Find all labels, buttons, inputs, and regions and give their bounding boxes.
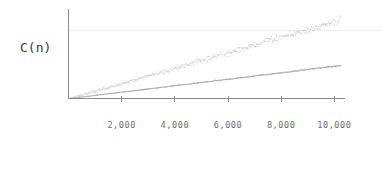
data-point <box>112 86 113 87</box>
data-point <box>226 50 227 51</box>
data-point <box>261 44 262 45</box>
data-point <box>295 35 296 36</box>
data-point <box>87 94 88 95</box>
data-point <box>197 59 198 60</box>
data-point <box>304 30 305 31</box>
data-point <box>289 31 290 32</box>
data-point <box>240 50 241 51</box>
data-point <box>165 69 166 70</box>
data-point <box>232 52 233 53</box>
data-point <box>277 41 278 42</box>
data-point <box>122 82 123 83</box>
data-point <box>208 59 209 60</box>
data-point <box>169 71 170 72</box>
data-point <box>316 28 317 29</box>
data-point <box>216 57 217 58</box>
data-point <box>336 16 337 17</box>
data-point <box>336 24 337 25</box>
data-point <box>184 66 185 67</box>
data-point <box>146 75 147 76</box>
data-point <box>262 42 263 43</box>
data-point <box>210 57 211 58</box>
data-point <box>200 60 201 61</box>
data-point <box>160 72 161 73</box>
data-point <box>132 79 133 80</box>
data-point <box>83 94 84 95</box>
data-point <box>268 73 269 74</box>
data-point <box>258 44 259 45</box>
data-point <box>273 42 274 43</box>
data-point <box>335 66 336 67</box>
data-point <box>146 76 147 77</box>
data-point <box>301 33 302 34</box>
data-point <box>109 87 110 88</box>
data-point <box>274 39 275 40</box>
data-point <box>152 73 153 74</box>
data-point <box>241 47 242 48</box>
data-point <box>317 26 318 27</box>
data-point <box>147 76 148 77</box>
data-point <box>301 30 302 31</box>
data-point <box>170 68 171 69</box>
data-point <box>166 70 167 71</box>
data-point <box>141 77 142 78</box>
data-point <box>207 61 208 62</box>
data-point <box>120 85 121 86</box>
data-point <box>221 57 222 58</box>
data-point <box>217 56 218 57</box>
data-point <box>284 37 285 38</box>
data-point <box>139 78 140 79</box>
data-point <box>243 48 244 49</box>
data-point <box>306 31 307 32</box>
data-point <box>291 34 292 35</box>
data-point <box>305 28 306 29</box>
data-point <box>339 19 340 20</box>
data-point <box>100 88 101 89</box>
data-point <box>275 40 276 41</box>
data-point <box>182 64 183 65</box>
data-point <box>121 83 122 84</box>
data-point <box>317 29 318 30</box>
data-point <box>288 34 289 35</box>
data-point <box>313 30 314 31</box>
data-point <box>338 23 339 24</box>
data-point <box>177 67 178 68</box>
data-point <box>334 20 335 21</box>
data-point <box>215 57 216 58</box>
data-point <box>171 70 172 71</box>
data-point <box>157 70 158 71</box>
data-point <box>244 48 245 49</box>
data-point <box>185 63 186 64</box>
data-point <box>137 78 138 79</box>
data-point <box>89 92 90 93</box>
data-point <box>114 83 115 84</box>
data-point <box>78 96 79 97</box>
data-point <box>235 49 236 50</box>
data-point <box>232 50 233 51</box>
data-point <box>217 54 218 55</box>
data-point <box>302 26 303 27</box>
data-point <box>223 58 224 59</box>
data-point <box>225 56 226 57</box>
data-point <box>212 55 213 56</box>
data-point <box>151 75 152 76</box>
data-point <box>276 37 277 38</box>
data-point <box>252 45 253 46</box>
x-axis-tick-label: 6,000 <box>214 120 243 130</box>
scatter-chart: C(n) 2,0004,0006,0008,00010,000 <box>0 0 382 170</box>
data-point <box>197 62 198 63</box>
data-point <box>299 32 300 33</box>
data-point <box>140 75 141 76</box>
data-point <box>263 40 264 41</box>
data-point <box>281 39 282 40</box>
data-point <box>219 55 220 56</box>
data-point <box>220 52 221 53</box>
data-point <box>273 38 274 39</box>
data-point <box>262 41 263 42</box>
data-point <box>139 77 140 78</box>
data-point <box>193 62 194 63</box>
data-point <box>209 56 210 57</box>
data-point <box>268 41 269 42</box>
data-point <box>259 43 260 44</box>
data-point <box>176 67 177 68</box>
